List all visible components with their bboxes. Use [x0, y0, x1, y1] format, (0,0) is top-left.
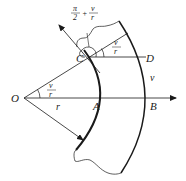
bottom-break-line — [74, 150, 121, 174]
label-b: B — [150, 100, 157, 112]
angle-arc-c-large — [82, 47, 96, 57]
top-plus: + — [82, 9, 87, 18]
geometry-diagram: O A B C D r v v r v r π 2 + v r — [0, 0, 186, 181]
angle-arc-o — [38, 90, 41, 99]
label-o: O — [11, 92, 19, 104]
radial-line-oc — [24, 33, 128, 98]
label-d: D — [145, 52, 154, 64]
angle-o-numerator: v — [49, 81, 53, 90]
label-a: A — [92, 100, 100, 112]
top-two: 2 — [73, 13, 77, 22]
outer-arc — [119, 21, 145, 173]
top-break-line — [77, 21, 119, 47]
label-v: v — [150, 72, 155, 83]
angle-d-denominator: r — [114, 47, 118, 56]
top-pi: π — [73, 4, 78, 13]
label-c: C — [76, 52, 84, 64]
radius-arrow — [24, 98, 83, 140]
angle-arc-c — [102, 49, 105, 58]
top-v: v — [91, 4, 95, 13]
top-r: r — [91, 13, 95, 22]
angle-d-numerator: v — [114, 38, 118, 47]
label-r: r — [56, 101, 60, 112]
